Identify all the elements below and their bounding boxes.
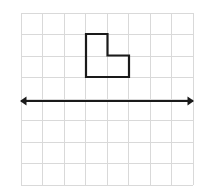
figure-canvas — [0, 0, 215, 195]
geometry-figure: Geometry figure: L-shaped polygon above … — [0, 0, 215, 195]
